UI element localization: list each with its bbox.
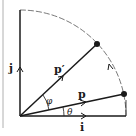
p-label: p — [78, 88, 86, 101]
rotation-arc — [20, 10, 126, 116]
j-label: j — [8, 62, 13, 75]
theta-label: θ — [67, 107, 73, 117]
rotation-diagram: j i p p′ θ φ — [0, 0, 136, 136]
arc-arrow-icon — [108, 64, 113, 70]
p-prime-label: p′ — [54, 63, 65, 76]
theta-arc — [63, 107, 64, 116]
p-endpoint — [121, 91, 127, 97]
p-prime-vector — [20, 44, 97, 116]
i-label: i — [80, 121, 84, 134]
p-prime-endpoint — [94, 41, 100, 47]
phi-label: φ — [46, 96, 53, 106]
